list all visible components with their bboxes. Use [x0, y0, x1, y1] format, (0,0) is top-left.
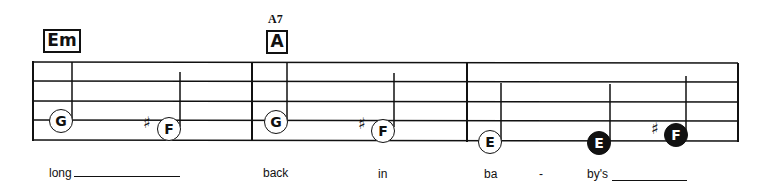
lyric-bys: by's [587, 167, 608, 181]
lyric-back: back [263, 166, 288, 180]
lyric-ba: ba [484, 167, 497, 181]
sharp-accidental: ♯ [651, 119, 659, 138]
lyric-long: long [49, 166, 72, 180]
note-head-filled: F [664, 123, 688, 147]
note-head: F [371, 119, 395, 143]
lyric-extender [612, 180, 687, 181]
note-head: F [157, 117, 181, 141]
note-head: G [49, 109, 73, 133]
lyric-hyphen: - [539, 167, 543, 181]
lyric-in: in [378, 167, 387, 181]
lyric-extender [74, 176, 180, 177]
staff [0, 0, 764, 194]
sharp-accidental: ♯ [358, 114, 366, 133]
note-head: G [264, 110, 288, 134]
note-head: E [478, 130, 502, 154]
note-head-filled: E [587, 131, 611, 155]
sharp-accidental: ♯ [143, 113, 151, 132]
